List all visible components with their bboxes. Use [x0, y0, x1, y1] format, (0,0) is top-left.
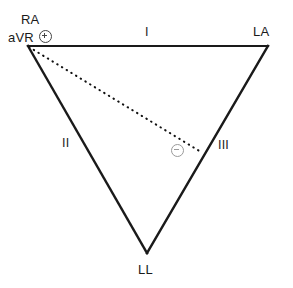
side-label-lead-I: I — [145, 25, 149, 40]
circled-minus-marker — [170, 142, 184, 160]
circled-plus-icon — [39, 30, 52, 43]
einthoven-triangle-figure: RA aVR LA LL I II III — [0, 0, 293, 288]
lead-II-line — [28, 46, 147, 253]
avr-lead-label-row: aVR — [8, 28, 52, 46]
side-label-lead-III: III — [218, 138, 229, 153]
avr-lead-label: aVR — [8, 30, 34, 45]
avr-axis-dotted-line — [29, 47, 201, 152]
vertex-label-ra: RA aVR — [8, 10, 52, 46]
vertex-label-ll: LL — [138, 262, 153, 277]
lead-III-line — [147, 46, 268, 253]
ra-electrode-label: RA — [8, 10, 52, 28]
circled-minus-icon — [171, 144, 184, 157]
side-label-lead-II: II — [62, 136, 69, 151]
vertex-label-la: LA — [253, 24, 269, 39]
